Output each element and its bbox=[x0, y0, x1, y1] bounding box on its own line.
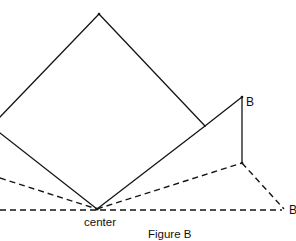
vertex-top bbox=[98, 13, 101, 16]
square-edge-lower-left bbox=[0, 133, 97, 209]
figure-caption: Figure B bbox=[148, 228, 192, 240]
dashed-lower-point-to-b-prime bbox=[242, 163, 284, 209]
label-b: B bbox=[246, 95, 254, 109]
dashed-center-to-lower-point bbox=[97, 163, 242, 209]
geometry-figure: B B center Figure B bbox=[0, 0, 296, 241]
square-edge-upper-left bbox=[0, 14, 99, 117]
figure-canvas: B B center Figure B bbox=[0, 0, 296, 241]
square-edge-upper-right bbox=[99, 14, 205, 126]
extension-to-b bbox=[205, 97, 242, 126]
vertex-center bbox=[95, 207, 98, 210]
vertex-b bbox=[241, 96, 244, 99]
dashed-left-to-center bbox=[0, 178, 97, 209]
label-b-prime: B bbox=[289, 203, 296, 217]
label-center: center bbox=[84, 216, 116, 228]
vertex-below-b bbox=[241, 162, 244, 165]
square-edge-lower-right bbox=[97, 126, 205, 209]
